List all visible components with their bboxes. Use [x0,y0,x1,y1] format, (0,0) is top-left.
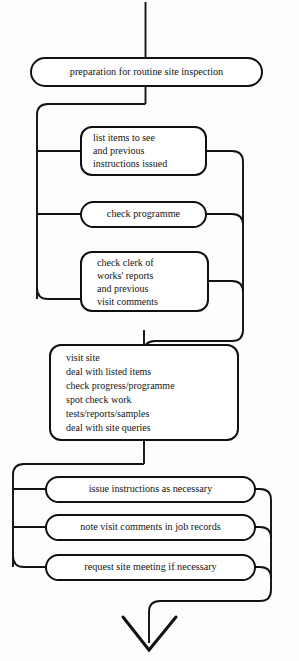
merge-from-list-items [206,151,243,330]
node-preparation[interactable]: preparation for routine site inspection [31,58,262,86]
node-visit-site-line-4: spot check work [66,394,132,405]
merge-from-note-visit [255,527,271,538]
node-note-visit-label: note visit comments in job records [80,521,221,532]
node-check-clerk-line-4: visit comments [97,296,158,307]
node-list-items-line-3: instructions issued [93,158,167,169]
node-list-items[interactable]: list items to see and previous instructi… [81,127,206,175]
node-list-items-line-2: and previous [93,145,144,156]
flowchart-canvas: preparation for routine site inspection … [0,0,299,661]
node-check-programme[interactable]: check programme [81,202,206,227]
branch-to-check-clerk [37,288,81,299]
node-check-clerk-line-3: and previous [97,283,148,294]
node-visit-site-line-1: visit site [66,352,100,363]
exit-connector-line [149,590,271,643]
branch-to-request-meeting [13,556,46,567]
node-list-items-line-1: list items to see [93,132,156,143]
node-check-clerk-line-2: works' reports [97,270,154,281]
node-visit-site[interactable]: visit site deal with listed items check … [50,345,238,440]
node-request-meeting[interactable]: request site meeting if necessary [46,555,255,580]
node-issue-instructions-label: issue instructions as necessary [89,483,214,494]
node-visit-site-line-6: deal with site queries [66,422,151,433]
node-visit-site-line-2: deal with listed items [66,366,151,377]
node-preparation-label: preparation for routine site inspection [70,66,223,77]
flowchart-svg: preparation for routine site inspection … [0,0,299,661]
node-note-visit[interactable]: note visit comments in job records [46,515,255,540]
merge-from-check-programme [206,214,243,225]
node-visit-site-line-3: check progress/programme [66,380,175,391]
merge-from-check-clerk [208,281,243,292]
node-check-clerk[interactable]: check clerk of works' reports and previo… [81,252,208,311]
merge-from-issue-instructions [255,489,271,590]
node-request-meeting-label: request site meeting if necessary [84,561,217,572]
node-issue-instructions[interactable]: issue instructions as necessary [46,477,255,502]
node-check-programme-label: check programme [107,208,181,219]
node-visit-site-line-5: tests/reports/samples [66,408,149,419]
merge-from-request-meeting [255,567,271,578]
node-check-clerk-line-1: check clerk of [97,257,154,268]
